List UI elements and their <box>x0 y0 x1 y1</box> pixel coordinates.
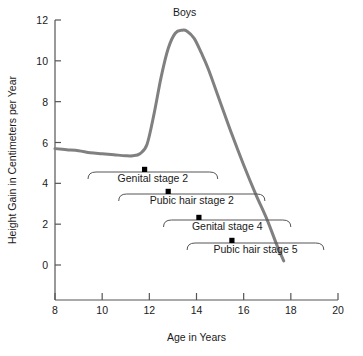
x-tick-label: 20 <box>332 304 344 316</box>
y-tick-label: 6 <box>42 137 48 149</box>
x-tick-label: 18 <box>285 304 297 316</box>
x-tick-label: 16 <box>238 304 250 316</box>
y-tick-label: 4 <box>42 177 48 189</box>
y-tick-label: 12 <box>36 14 48 26</box>
y-tick-label: 2 <box>42 218 48 230</box>
stage-label: Genital stage 4 <box>192 220 263 232</box>
x-tick-label: 10 <box>96 304 108 316</box>
y-tick-label: 8 <box>42 96 48 108</box>
stage-label: Pubic hair stage 5 <box>213 243 297 255</box>
stage-label: Genital stage 2 <box>118 172 189 184</box>
y-axis-title: Height Gain in Centimeters per Year <box>6 75 18 244</box>
stage-label: Pubic hair stage 2 <box>150 194 234 206</box>
x-tick-label: 14 <box>191 304 203 316</box>
chart-container: 024681012 8101214161820 Genital stage 2P… <box>0 0 363 356</box>
growth-velocity-chart: 024681012 8101214161820 Genital stage 2P… <box>0 0 363 356</box>
x-tick-label: 12 <box>143 304 155 316</box>
x-tick-label: 8 <box>52 304 58 316</box>
chart-title: Boys <box>173 6 196 18</box>
y-tick-label: 10 <box>36 55 48 67</box>
y-tick-label: 0 <box>42 259 48 271</box>
x-axis-title: Age in Years <box>167 331 226 343</box>
